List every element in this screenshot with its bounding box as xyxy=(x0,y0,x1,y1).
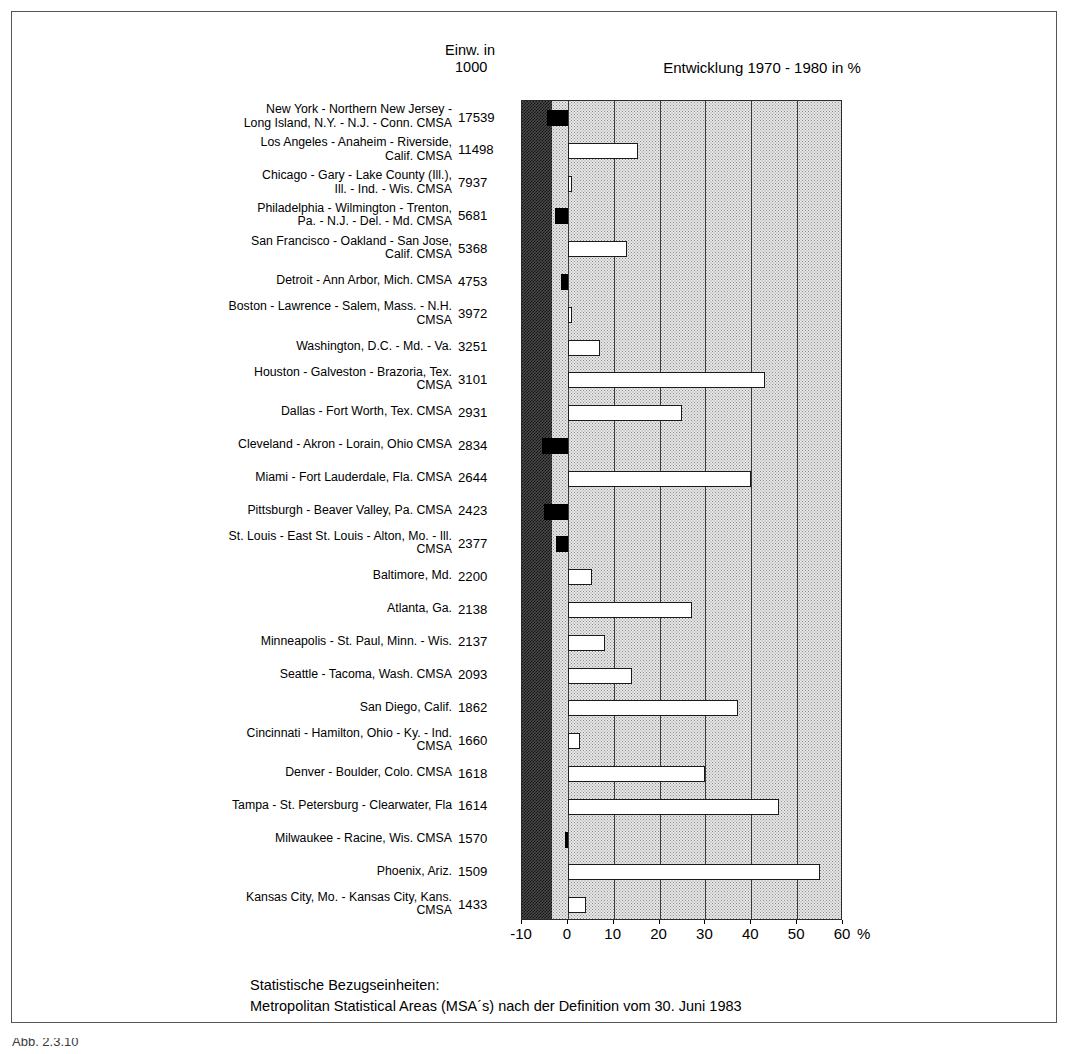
bar xyxy=(542,438,568,454)
footnote: Statistische Bezugseinheiten: Metropolit… xyxy=(250,975,742,1017)
x-axis-unit-label: % xyxy=(857,925,870,942)
category-label: Miami - Fort Lauderdale, Fla. CMSA xyxy=(112,461,452,495)
bar-row xyxy=(522,659,841,693)
bar xyxy=(568,668,632,684)
category-label-text: Miami - Fort Lauderdale, Fla. CMSA xyxy=(255,471,452,485)
population-value: 1660 xyxy=(458,723,514,757)
bar xyxy=(568,405,683,421)
category-label: Los Angeles - Anaheim - Riverside,Calif.… xyxy=(112,133,452,167)
bar-row xyxy=(522,495,841,529)
population-column-header: Einw. in 1000 xyxy=(445,42,515,76)
axis-tick-label: 0 xyxy=(547,925,587,942)
population-value-text: 5681 xyxy=(458,208,487,223)
population-value: 3251 xyxy=(458,330,514,364)
axis-tick-label: 40 xyxy=(730,925,770,942)
category-label-text: Phoenix, Ariz. xyxy=(377,865,452,879)
category-label: Houston - Galveston - Brazoria, Tex.CMSA xyxy=(112,362,452,396)
axis-tick-label: -10 xyxy=(501,925,541,942)
population-value: 2644 xyxy=(458,461,514,495)
bar xyxy=(555,208,568,224)
bar xyxy=(568,897,586,913)
bar xyxy=(565,832,568,848)
axis-tick xyxy=(659,920,660,924)
population-value-text: 5368 xyxy=(458,241,487,256)
bar xyxy=(568,766,706,782)
category-label: Phoenix, Ariz. xyxy=(112,854,452,888)
bar xyxy=(547,110,568,126)
population-value: 17539 xyxy=(458,100,514,134)
axis-tick xyxy=(521,920,522,924)
category-label-text: Baltimore, Md. xyxy=(373,569,452,583)
category-label-text: Boston - Lawrence - Salem, Mass. - N.H.C… xyxy=(229,300,452,327)
category-label-text: Philadelphia - Wilmington - Trenton,Pa. … xyxy=(257,202,452,229)
category-label: Chicago - Gary - Lake County (Ill.),Ill.… xyxy=(112,166,452,200)
bar xyxy=(568,471,751,487)
bar-row xyxy=(522,593,841,627)
population-value-text: 2138 xyxy=(458,602,487,617)
population-value-text: 1614 xyxy=(458,798,487,813)
population-value-text: 3101 xyxy=(458,372,487,387)
category-label: Cincinnati - Hamilton, Ohio - Ky. - Ind.… xyxy=(112,723,452,757)
category-label: Washington, D.C. - Md. - Va. xyxy=(112,330,452,364)
bar-row xyxy=(522,331,841,365)
bar-row xyxy=(522,396,841,430)
population-value-text: 2200 xyxy=(458,569,487,584)
bar xyxy=(568,799,779,815)
bar xyxy=(568,864,820,880)
bar-row xyxy=(522,167,841,201)
bar xyxy=(568,372,765,388)
category-label-text: Chicago - Gary - Lake County (Ill.),Ill.… xyxy=(262,169,452,196)
category-label: Boston - Lawrence - Salem, Mass. - N.H.C… xyxy=(112,297,452,331)
bar xyxy=(568,700,738,716)
category-label-text: Pittsburgh - Beaver Valley, Pa. CMSA xyxy=(247,504,452,518)
axis-tick-label: 30 xyxy=(684,925,724,942)
bar xyxy=(544,504,568,520)
population-value-text: 3251 xyxy=(458,339,487,354)
population-value-text: 2423 xyxy=(458,503,487,518)
category-label: San Francisco - Oakland - San Jose,Calif… xyxy=(112,231,452,265)
bar-row xyxy=(522,363,841,397)
axis-tick-label: 10 xyxy=(593,925,633,942)
population-value: 5681 xyxy=(458,198,514,232)
category-label-text: San Francisco - Oakland - San Jose,Calif… xyxy=(251,235,452,262)
category-label: Detroit - Ann Arbor, Mich. CMSA xyxy=(112,264,452,298)
category-label: New York - Northern New Jersey -Long Isl… xyxy=(112,100,452,134)
population-value: 2137 xyxy=(458,625,514,659)
axis-tick xyxy=(842,920,843,924)
category-label: Denver - Boulder, Colo. CMSA xyxy=(112,756,452,790)
footnote-line1: Statistische Bezugseinheiten: xyxy=(250,975,742,996)
population-value-text: 2644 xyxy=(458,470,487,485)
axis-tick-label: 50 xyxy=(776,925,816,942)
category-label-text: St. Louis - East St. Louis - Alton, Mo. … xyxy=(229,530,452,557)
bar xyxy=(568,569,592,585)
category-label-text: Houston - Galveston - Brazoria, Tex.CMSA xyxy=(254,366,452,393)
population-value-text: 4753 xyxy=(458,274,487,289)
category-label-column: New York - Northern New Jersey -Long Isl… xyxy=(112,100,452,920)
bar xyxy=(568,733,580,749)
population-value: 1509 xyxy=(458,854,514,888)
category-label: Dallas - Fort Worth, Tex. CMSA xyxy=(112,395,452,429)
bar-row xyxy=(522,101,841,135)
category-label: Baltimore, Md. xyxy=(112,559,452,593)
population-value: 2931 xyxy=(458,395,514,429)
axis-tick xyxy=(750,920,751,924)
population-value-text: 2931 xyxy=(458,405,487,420)
bar-row xyxy=(522,691,841,725)
category-label-text: Tampa - St. Petersburg - Clearwater, Fla xyxy=(232,799,452,813)
population-value-text: 1862 xyxy=(458,700,487,715)
category-label-text: Los Angeles - Anaheim - Riverside,Calif.… xyxy=(261,136,452,163)
population-value-text: 1433 xyxy=(458,897,487,912)
population-value: 1862 xyxy=(458,690,514,724)
bar-row xyxy=(522,298,841,332)
axis-tick-label: 60 xyxy=(822,925,862,942)
population-value-text: 2834 xyxy=(458,438,487,453)
population-value-text: 11498 xyxy=(458,142,494,157)
figure-frame: Einw. in 1000 Entwicklung 1970 - 1980 in… xyxy=(11,11,1057,1023)
population-value: 3101 xyxy=(458,362,514,396)
category-label-text: San Diego, Calif. xyxy=(360,701,452,715)
category-label: Tampa - St. Petersburg - Clearwater, Fla xyxy=(112,789,452,823)
population-value: 11498 xyxy=(458,133,514,167)
population-value: 1618 xyxy=(458,756,514,790)
bar-row xyxy=(522,757,841,791)
figure-caption: Abb. 2.3.10 xyxy=(12,1038,212,1054)
